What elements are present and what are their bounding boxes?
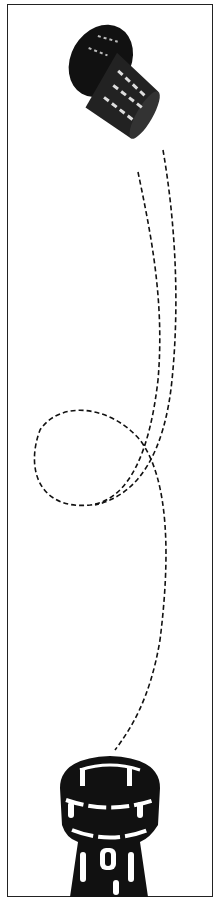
cork-icon <box>49 13 183 142</box>
trajectory-path <box>34 150 175 750</box>
bottle-icon <box>60 756 160 897</box>
cork-illustration <box>0 0 224 905</box>
